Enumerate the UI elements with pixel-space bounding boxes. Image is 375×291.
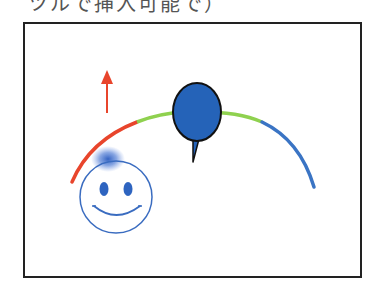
blur-spot [91, 146, 125, 172]
arc-blue [262, 122, 314, 187]
smiley-face-icon [80, 161, 152, 233]
diagram-canvas [0, 0, 375, 291]
up-arrow-icon [101, 70, 113, 113]
balloon-pin-icon [173, 83, 221, 162]
